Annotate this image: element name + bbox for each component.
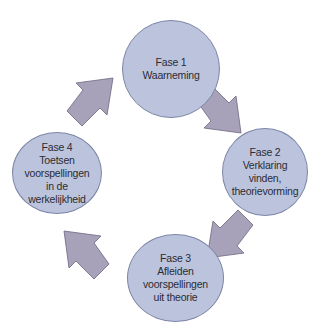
phase-2-line: theorievorming [232,185,299,198]
phase-4-title: Fase 4 [42,141,73,154]
phase-3-circle: Fase 3 Afleiden voorspellingen uit theor… [127,234,224,322]
phase-4-circle: Fase 4 Toetsen voorspellingen in de werk… [12,132,102,214]
phase-1-line: Waarneming [142,69,199,82]
phase-4-line: Toetsen [39,154,74,167]
phase-2-circle: Fase 2 Verklaring vinden, theorievorming [222,128,308,216]
phase-3-line: voorspellingen [143,278,208,291]
phase-2-title: Fase 2 [250,146,281,159]
phase-3-line: uit theorie [154,291,198,304]
research-cycle-diagram: Fase 1 Waarneming Fase 2 Verklaring vind… [0,0,321,335]
phase-1-circle: Fase 1 Waarneming [122,20,220,118]
phase-2-line: Verklaring [243,159,288,172]
arrow-icon-phase4-to-phase1 [67,78,113,126]
phase-2-line: vinden, [249,172,281,185]
arrow-icon-phase3-to-phase4 [64,231,109,279]
phase-4-line: werkelijkheid [28,193,86,206]
phase-1-title: Fase 1 [156,56,187,69]
phase-4-line: voorspellingen [25,167,90,180]
phase-3-line: Afleiden [157,265,193,278]
phase-3-title: Fase 3 [160,252,191,265]
phase-4-line: in de [46,180,68,193]
